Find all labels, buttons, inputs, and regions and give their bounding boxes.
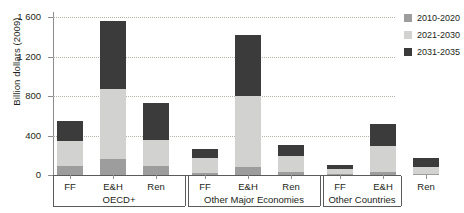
bar-segment-2010-2020 xyxy=(143,166,169,175)
y-axis-tick xyxy=(48,17,53,18)
bar-segment-2031-2035 xyxy=(57,121,83,141)
y-axis-tick xyxy=(48,136,53,137)
x-axis-tick xyxy=(340,175,341,179)
bar-eandh-4[interactable] xyxy=(235,35,261,175)
bar-segment-2021-2030 xyxy=(370,146,396,172)
y-axis-tick-label: 800 xyxy=(7,90,41,101)
y-axis-tick-label: 400 xyxy=(7,130,41,141)
x-axis-label-ren: Ren xyxy=(129,181,183,192)
x-axis-label-ren: Ren xyxy=(399,181,453,192)
x-axis-label-ren: Ren xyxy=(264,181,318,192)
bar-segment-2021-2030 xyxy=(192,158,218,172)
x-axis-tick xyxy=(205,175,206,179)
bar-segment-2010-2020 xyxy=(57,166,83,175)
y-axis-tick xyxy=(48,57,53,58)
y-axis-tick-label: 0 xyxy=(7,169,41,180)
y-axis-tick-label: 1 200 xyxy=(7,51,41,62)
bar-ren-8[interactable] xyxy=(413,158,439,175)
group-underline xyxy=(323,206,401,207)
group-label-other-major-economies: Other Major Economies xyxy=(188,194,320,205)
x-axis-tick xyxy=(383,175,384,179)
x-axis-tick xyxy=(113,175,114,179)
bar-eandh-7[interactable] xyxy=(370,124,396,175)
group-underline xyxy=(188,206,320,207)
bar-segment-2031-2035 xyxy=(235,35,261,96)
legend-item[interactable]: 2010-2020 xyxy=(404,10,460,25)
x-axis-line xyxy=(53,175,401,176)
x-axis-tick xyxy=(426,175,427,179)
group-label-other-countries: Other Countries xyxy=(323,194,401,205)
legend-label: 2031-2035 xyxy=(417,47,460,57)
bar-segment-2021-2030 xyxy=(278,156,304,172)
x-axis-tick xyxy=(156,175,157,179)
legend-swatch-2010-2020 xyxy=(404,14,412,22)
legend-item[interactable]: 2021-2030 xyxy=(404,27,460,42)
bar-segment-2021-2030 xyxy=(143,140,169,166)
group-separator xyxy=(185,176,186,206)
y-axis-tick xyxy=(48,96,53,97)
legend-swatch-2021-2030 xyxy=(404,31,412,39)
gridline xyxy=(53,17,395,18)
bar-ff-3[interactable] xyxy=(192,149,218,175)
bar-segment-2031-2035 xyxy=(192,149,218,158)
bar-segment-2021-2030 xyxy=(413,167,439,174)
group-separator xyxy=(320,176,321,206)
bar-segment-2031-2035 xyxy=(413,158,439,167)
bar-ren-5[interactable] xyxy=(278,145,304,175)
x-axis-tick xyxy=(291,175,292,179)
y-axis-tick-label: 1 600 xyxy=(7,11,41,22)
bar-ff-0[interactable] xyxy=(57,121,83,175)
legend-swatch-2031-2035 xyxy=(404,48,412,56)
bar-segment-2021-2030 xyxy=(235,96,261,167)
bar-segment-2031-2035 xyxy=(143,103,169,140)
bar-segment-2021-2030 xyxy=(100,89,126,159)
stacked-bar-chart: Billion dollars (2009) 04008001 2001 600… xyxy=(0,0,464,213)
bar-segment-2010-2020 xyxy=(100,159,126,175)
bar-segment-2031-2035 xyxy=(370,124,396,146)
bar-ff-6[interactable] xyxy=(327,165,353,175)
x-axis-tick xyxy=(70,175,71,179)
legend: 2010-2020 2021-2030 2031-2035 xyxy=(404,10,460,61)
bar-segment-2031-2035 xyxy=(278,145,304,156)
group-label-oecd-: OECD+ xyxy=(53,194,185,205)
legend-label: 2021-2030 xyxy=(417,30,460,40)
legend-label: 2010-2020 xyxy=(417,13,460,23)
bar-eandh-1[interactable] xyxy=(100,21,126,175)
legend-item[interactable]: 2031-2035 xyxy=(404,44,460,59)
bar-ren-2[interactable] xyxy=(143,103,169,175)
group-separator xyxy=(401,176,402,206)
x-axis-tick xyxy=(248,175,249,179)
bar-segment-2031-2035 xyxy=(100,21,126,89)
group-underline xyxy=(53,206,185,207)
bar-segment-2010-2020 xyxy=(235,167,261,175)
bar-segment-2021-2030 xyxy=(57,141,83,166)
plot-area: 04008001 2001 600 xyxy=(53,17,395,175)
